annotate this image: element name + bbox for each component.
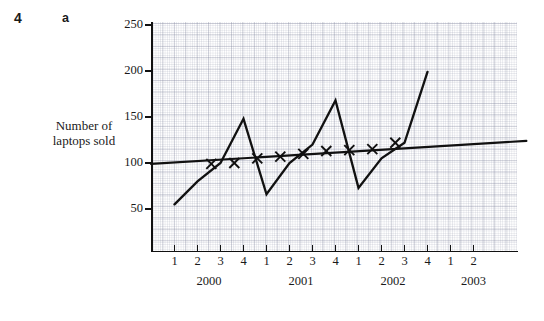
quarterly-sales-line <box>175 72 428 204</box>
moving-average-markers <box>206 138 400 169</box>
chart-figure: 4 a Number of laptops sold 5010015020025… <box>0 0 544 321</box>
chart-plot-overlay <box>0 0 544 321</box>
